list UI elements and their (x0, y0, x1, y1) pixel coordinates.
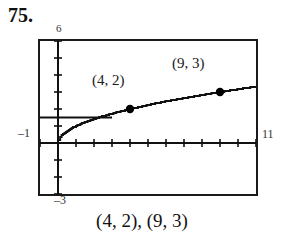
graph-plot-area (40, 41, 256, 194)
data-point (216, 88, 224, 96)
axis-label-xmax: 11 (262, 127, 274, 142)
data-series-0 (59, 87, 256, 140)
axis-label-ymax: 6 (56, 22, 62, 34)
graph-svg (40, 41, 256, 194)
point-annotation-a: (4, 2) (92, 72, 125, 89)
answer-caption: (4, 2), (9, 3) (0, 210, 284, 232)
graph-frame (38, 39, 258, 196)
figure-container: 75. 6 –1 11 –3 (4, 2) (9, 3) (4, 2), (9,… (0, 0, 284, 242)
point-annotation-b: (9, 3) (172, 55, 205, 72)
data-point (126, 105, 134, 113)
axis-label-xmin: –1 (18, 126, 30, 141)
problem-number: 75. (8, 4, 33, 27)
